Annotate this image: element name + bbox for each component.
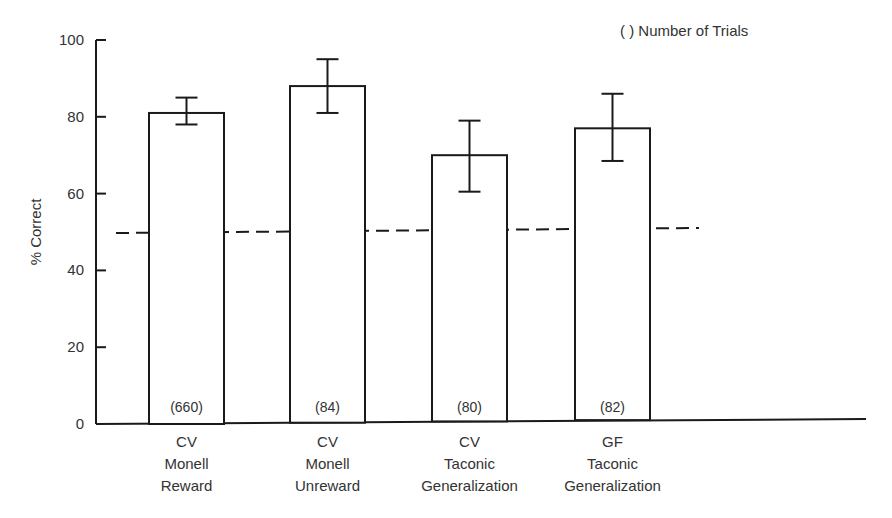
category-label: Taconic bbox=[444, 455, 495, 472]
category-label: CV bbox=[459, 433, 480, 450]
bar-1 bbox=[149, 113, 224, 424]
category-label: Monell bbox=[305, 455, 349, 472]
category-label: Unreward bbox=[295, 477, 360, 494]
bar-3 bbox=[432, 155, 507, 421]
category-label: GF bbox=[602, 433, 623, 450]
category-label: Taconic bbox=[587, 455, 638, 472]
category-label: Generalization bbox=[564, 477, 661, 494]
category-label: Generalization bbox=[421, 477, 518, 494]
y-tick-label: 20 bbox=[67, 338, 84, 355]
n-trials-label: (80) bbox=[457, 399, 482, 415]
category-label: CV bbox=[317, 433, 338, 450]
category-label: Reward bbox=[161, 477, 213, 494]
bar-4 bbox=[575, 128, 650, 420]
y-tick-label: 60 bbox=[67, 185, 84, 202]
y-tick-label: 100 bbox=[59, 31, 84, 48]
category-label: CV bbox=[176, 433, 197, 450]
category-label: Monell bbox=[164, 455, 208, 472]
n-trials-label: (82) bbox=[600, 399, 625, 415]
y-tick-label: 40 bbox=[67, 261, 84, 278]
bar-2 bbox=[290, 86, 365, 423]
y-tick-label: 80 bbox=[67, 108, 84, 125]
n-trials-label: (660) bbox=[170, 399, 203, 415]
n-trials-label: (84) bbox=[315, 399, 340, 415]
y-tick-label: 0 bbox=[76, 415, 84, 432]
bar-chart: 020406080100% Correct(660)CVMonellReward… bbox=[0, 0, 892, 518]
y-axis-label: % Correct bbox=[27, 198, 44, 266]
legend-number-of-trials: ( ) Number of Trials bbox=[620, 22, 748, 39]
